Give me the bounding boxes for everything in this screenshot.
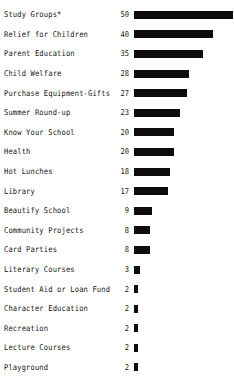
value-label: 27 xyxy=(110,88,130,98)
bar-track xyxy=(130,299,233,319)
bar xyxy=(134,207,152,215)
bar-track xyxy=(130,25,233,45)
category-label: Recreation xyxy=(2,323,110,333)
bar xyxy=(134,363,138,371)
category-label: Relief for Children xyxy=(2,29,110,39)
bar xyxy=(134,266,140,274)
value-label: 35 xyxy=(110,49,130,59)
bar xyxy=(134,89,187,97)
category-label: Playground xyxy=(2,362,110,372)
bar xyxy=(134,148,174,156)
bar-chart-row: Student Aid or Loan Fund2 xyxy=(2,279,233,299)
value-label: 2 xyxy=(110,323,130,333)
value-label: 20 xyxy=(110,127,130,137)
bar xyxy=(134,285,138,293)
bar xyxy=(134,11,233,19)
bar-track xyxy=(130,162,233,182)
bar-chart-row: Health20 xyxy=(2,142,233,162)
bar xyxy=(134,70,189,78)
bar-chart-row: Recreation2 xyxy=(2,319,233,339)
value-label: 17 xyxy=(110,186,130,196)
value-label: 2 xyxy=(110,343,130,353)
bar xyxy=(134,344,138,352)
bar-track xyxy=(130,240,233,260)
bar xyxy=(134,30,213,38)
category-label: Child Welfare xyxy=(2,69,110,79)
bar-track xyxy=(130,64,233,84)
category-label: Beautify School xyxy=(2,206,110,216)
value-label: 50 xyxy=(110,10,130,20)
category-label: Card Parties xyxy=(2,245,110,255)
bar-track xyxy=(130,83,233,103)
bar-track xyxy=(130,260,233,280)
bar-track xyxy=(130,142,233,162)
bar xyxy=(134,305,138,313)
bar-track xyxy=(130,279,233,299)
category-label: Character Education xyxy=(2,304,110,314)
bar-chart-row: Summer Round-up23 xyxy=(2,103,233,123)
category-label: Purchase Equipment-Gifts xyxy=(2,88,110,98)
bar-chart-row: Character Education2 xyxy=(2,299,233,319)
bar xyxy=(134,187,168,195)
bar-track xyxy=(130,44,233,64)
bar xyxy=(134,226,150,234)
value-label: 40 xyxy=(110,29,130,39)
bar xyxy=(134,246,150,254)
bar xyxy=(134,109,180,117)
value-label: 9 xyxy=(110,206,130,216)
bar-chart-row: Relief for Children40 xyxy=(2,25,233,45)
bar-chart-row: Beautify School9 xyxy=(2,201,233,221)
value-label: 28 xyxy=(110,69,130,79)
bar xyxy=(134,128,174,136)
category-label: Lecture Courses xyxy=(2,343,110,353)
bar-chart-row: Library17 xyxy=(2,181,233,201)
bar xyxy=(134,50,203,58)
bar xyxy=(134,324,138,332)
category-label: Know Your School xyxy=(2,127,110,137)
value-label: 2 xyxy=(110,362,130,372)
bar-track xyxy=(130,319,233,339)
value-label: 20 xyxy=(110,147,130,157)
category-label: Health xyxy=(2,147,110,157)
category-label: Library xyxy=(2,186,110,196)
bar-chart-row: Literary Courses3 xyxy=(2,260,233,280)
bar-chart-row: Lecture Courses2 xyxy=(2,338,233,358)
category-label: Parent Education xyxy=(2,49,110,59)
category-label: Summer Round-up xyxy=(2,108,110,118)
bar-track xyxy=(130,201,233,221)
bar-chart-row: Study Groups*50 xyxy=(2,5,233,25)
bar-track xyxy=(130,338,233,358)
bar-track xyxy=(130,181,233,201)
bar-chart-row: Parent Education35 xyxy=(2,44,233,64)
bar-track xyxy=(130,221,233,241)
value-label: 8 xyxy=(110,245,130,255)
bar-chart-row: Hot Lunches18 xyxy=(2,162,233,182)
value-label: 2 xyxy=(110,284,130,294)
category-label: Student Aid or Loan Fund xyxy=(2,284,110,294)
value-label: 8 xyxy=(110,225,130,235)
bar-chart-row: Playground2 xyxy=(2,358,233,376)
bar-chart-row: Purchase Equipment-Gifts27 xyxy=(2,83,233,103)
value-label: 23 xyxy=(110,108,130,118)
category-label: Hot Lunches xyxy=(2,167,110,177)
category-label: Literary Courses xyxy=(2,264,110,274)
value-label: 18 xyxy=(110,167,130,177)
bar-track xyxy=(130,5,233,25)
bar-track xyxy=(130,358,233,376)
value-label: 2 xyxy=(110,304,130,314)
bar-chart-row: Child Welfare28 xyxy=(2,64,233,84)
category-label: Study Groups* xyxy=(2,10,110,20)
bar-chart-row: Know Your School20 xyxy=(2,123,233,143)
bar-chart-row: Card Parties8 xyxy=(2,240,233,260)
bar-track xyxy=(130,103,233,123)
bar-track xyxy=(130,123,233,143)
bar xyxy=(134,168,170,176)
value-label: 3 xyxy=(110,264,130,274)
category-label: Community Projects xyxy=(2,225,110,235)
bar-chart-row: Community Projects8 xyxy=(2,221,233,241)
